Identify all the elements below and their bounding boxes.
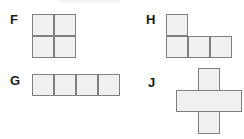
shape-g (32, 74, 120, 96)
shape-label-h: H (146, 13, 156, 26)
cell (98, 74, 120, 96)
shape-j (176, 68, 242, 134)
cell (32, 36, 54, 58)
figure-canvas: F H G J (0, 0, 244, 139)
cell (166, 36, 188, 58)
cell (188, 36, 210, 58)
shape-f (32, 14, 76, 58)
cross-center-gap (176, 68, 198, 90)
cell (32, 74, 54, 96)
shape-label-g: G (10, 74, 20, 87)
cell (54, 14, 76, 36)
top-edge-artifact (60, 0, 120, 3)
shape-h (166, 14, 232, 58)
cross-horizontal-bar (176, 90, 242, 112)
cell (76, 74, 98, 96)
shape-label-f: F (10, 13, 18, 26)
shape-label-j: J (148, 76, 156, 89)
cell (32, 14, 54, 36)
cell (54, 74, 76, 96)
cell (166, 14, 188, 36)
cell (210, 36, 232, 58)
cell (54, 36, 76, 58)
